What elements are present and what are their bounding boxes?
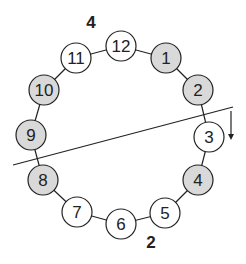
svg-text:9: 9	[26, 126, 35, 145]
svg-text:6: 6	[116, 215, 125, 234]
node-3: 3	[194, 122, 224, 152]
bottom-count-label: 2	[146, 233, 155, 253]
circle-diagram: 121234567891011	[0, 0, 246, 264]
node-10: 10	[29, 75, 59, 105]
node-9: 9	[16, 120, 46, 150]
node-4: 4	[183, 165, 213, 195]
svg-text:1: 1	[161, 49, 170, 68]
svg-text:12: 12	[112, 37, 131, 56]
node-7: 7	[62, 197, 92, 227]
svg-text:4: 4	[193, 171, 202, 190]
svg-text:7: 7	[72, 203, 81, 222]
svg-text:10: 10	[35, 81, 54, 100]
node-8: 8	[28, 165, 58, 195]
node-2: 2	[183, 75, 213, 105]
arrow-down-icon	[228, 111, 234, 140]
node-1: 1	[151, 43, 181, 73]
svg-text:5: 5	[160, 204, 169, 223]
svg-text:8: 8	[38, 171, 47, 190]
svg-text:3: 3	[204, 128, 213, 147]
node-6: 6	[106, 209, 136, 239]
top-count-label: 4	[86, 13, 95, 33]
node-11: 11	[61, 43, 91, 73]
svg-text:2: 2	[193, 81, 202, 100]
svg-text:11: 11	[67, 49, 85, 68]
node-12: 12	[106, 31, 136, 61]
node-5: 5	[150, 198, 180, 228]
